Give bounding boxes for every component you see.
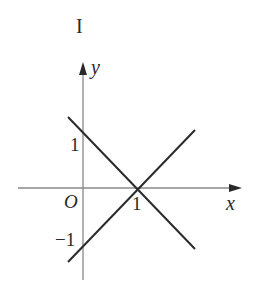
x-axis-arrow-icon xyxy=(229,184,242,192)
x-axis-label: x xyxy=(225,192,235,214)
y-tick-one: 1 xyxy=(70,134,80,155)
x-tick-one: 1 xyxy=(132,193,142,214)
figure-label: I xyxy=(76,15,83,37)
y-axis-arrow-icon xyxy=(79,62,87,75)
coordinate-diagram: I y x O 1 1 −1 xyxy=(0,0,255,290)
descending-line xyxy=(68,117,195,249)
y-tick-neg-one: −1 xyxy=(55,229,75,250)
origin-label: O xyxy=(64,191,78,212)
y-axis-label: y xyxy=(89,56,100,79)
